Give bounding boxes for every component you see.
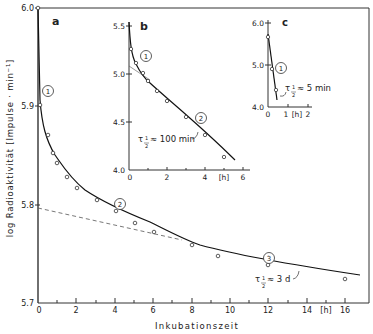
svg-text:2: 2 [73, 306, 78, 315]
svg-text:1: 1 [145, 135, 148, 141]
svg-text:1: 1 [262, 275, 265, 281]
svg-text:2: 2 [199, 115, 203, 123]
inset-b-fit-line [129, 66, 150, 80]
svg-text:2: 2 [145, 143, 148, 149]
svg-text:0: 0 [128, 173, 133, 182]
svg-text:0: 0 [36, 306, 41, 315]
svg-text:0: 0 [266, 110, 271, 119]
svg-text:5.8: 5.8 [21, 201, 34, 210]
main-x-ticks [57, 298, 345, 303]
svg-text:6: 6 [150, 306, 155, 315]
panel-label-a: a [52, 15, 59, 28]
svg-text:≈ 3 d: ≈ 3 d [267, 274, 290, 284]
svg-text:τ: τ [138, 134, 143, 144]
svg-text:≈ 5 min: ≈ 5 min [297, 83, 331, 93]
svg-text:τ: τ [285, 83, 290, 93]
halflife-annotation-b: τ 1 2 ≈ 100 min [138, 132, 198, 149]
svg-text:2: 2 [306, 110, 311, 119]
svg-text:≈ 100 min: ≈ 100 min [150, 134, 195, 144]
svg-text:4.0: 4.0 [252, 103, 264, 112]
halflife-annotation-c: τ 1 2 ≈ 5 min [280, 83, 331, 98]
svg-text:16: 16 [340, 306, 350, 315]
figure: 5.7 5.8 5.9 6.0 0 2 4 6 8 10 12 14 16 [h… [0, 0, 373, 334]
svg-text:5.0: 5.0 [113, 70, 125, 79]
svg-text:6: 6 [241, 173, 246, 182]
panel-label-b: b [140, 20, 148, 33]
main-curve [38, 8, 360, 275]
svg-text:5.9: 5.9 [21, 102, 34, 111]
y-axis-label: log Radioaktivität [Impulse · min⁻¹] [5, 59, 15, 237]
inset-c-circled-label: 1 [276, 63, 287, 74]
svg-text:1: 1 [46, 88, 50, 96]
extrapolation-line [38, 208, 182, 240]
svg-text:1: 1 [279, 65, 283, 73]
svg-text:5.5: 5.5 [113, 22, 125, 31]
svg-text:4: 4 [203, 173, 208, 182]
svg-text:4.0: 4.0 [113, 166, 125, 175]
svg-text:14: 14 [302, 306, 312, 315]
svg-text:1: 1 [292, 84, 295, 90]
halflife-annotation-a: τ 1 2 ≈ 3 d [255, 271, 299, 289]
svg-text:8: 8 [189, 306, 194, 315]
svg-text:2: 2 [292, 92, 295, 98]
svg-text:6.0: 6.0 [21, 4, 34, 13]
svg-text:4: 4 [112, 306, 117, 315]
panel-label-c: c [282, 17, 288, 28]
inset-b-circled-labels: 1 2 [141, 51, 207, 124]
main-x-tick-labels: 0 2 4 6 8 10 12 14 16 [h] [36, 306, 350, 315]
svg-text:[h]: [h] [320, 306, 331, 315]
svg-text:2: 2 [118, 201, 122, 209]
svg-text:1: 1 [284, 110, 289, 119]
svg-text:12: 12 [263, 306, 273, 315]
svg-text:4.5: 4.5 [113, 118, 125, 127]
svg-text:6.0: 6.0 [252, 19, 264, 28]
x-axis-label: Inkubationszeit [155, 321, 239, 331]
svg-text:τ: τ [255, 274, 260, 284]
svg-text:2: 2 [165, 173, 170, 182]
svg-text:[h]: [h] [219, 173, 230, 182]
svg-text:1: 1 [144, 53, 148, 61]
svg-text:[h]: [h] [292, 110, 303, 119]
main-y-tick-labels: 5.7 5.8 5.9 6.0 [21, 4, 34, 308]
main-plot-frame [38, 8, 369, 303]
svg-text:3: 3 [267, 255, 271, 263]
svg-text:10: 10 [225, 306, 235, 315]
svg-text:5.0: 5.0 [252, 61, 264, 70]
svg-text:2: 2 [262, 283, 265, 289]
svg-text:5.7: 5.7 [21, 299, 34, 308]
